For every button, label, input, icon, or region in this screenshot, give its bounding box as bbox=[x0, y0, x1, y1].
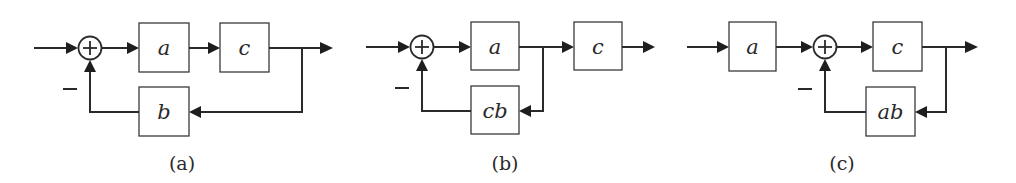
arrowhead-icon bbox=[801, 41, 813, 53]
arrowhead-icon bbox=[519, 105, 531, 117]
svg-text:a: a bbox=[489, 35, 502, 59]
block-a: a bbox=[139, 23, 189, 72]
svg-text:c: c bbox=[239, 36, 251, 60]
arrowhead-icon bbox=[208, 42, 220, 54]
arrowhead-icon bbox=[819, 59, 831, 71]
arrowhead-icon bbox=[861, 41, 873, 53]
arrowhead-icon bbox=[416, 59, 428, 71]
caption-c: (c) bbox=[829, 152, 854, 174]
summing-junction bbox=[411, 36, 434, 59]
svg-text:b: b bbox=[157, 100, 170, 124]
arrowhead-icon bbox=[643, 41, 655, 53]
block-a: a bbox=[471, 22, 519, 70]
block-c: c bbox=[574, 22, 622, 70]
svg-text:ab: ab bbox=[878, 100, 904, 124]
arrowhead-icon bbox=[717, 41, 729, 53]
svg-text:cb: cb bbox=[482, 99, 507, 123]
arrowhead-icon bbox=[66, 42, 78, 54]
arrowhead-icon bbox=[398, 41, 410, 53]
diagram-b: a c cb (b) bbox=[366, 22, 655, 174]
block-a: a bbox=[729, 22, 776, 71]
svg-text:a: a bbox=[746, 35, 759, 59]
arrowhead-icon bbox=[127, 42, 139, 54]
block-b: b bbox=[139, 87, 189, 136]
diagram-c: a c ab (c) bbox=[687, 22, 978, 174]
feedback-line bbox=[925, 47, 946, 112]
svg-text:c: c bbox=[892, 35, 904, 59]
block-cb: cb bbox=[471, 86, 519, 134]
svg-text:a: a bbox=[158, 36, 171, 60]
caption-a: (a) bbox=[169, 152, 195, 174]
block-diagram-figure: a c b (a) bbox=[0, 0, 1016, 183]
feedback-line bbox=[529, 47, 543, 111]
arrowhead-icon bbox=[965, 41, 978, 53]
arrowhead-icon bbox=[562, 41, 574, 53]
arrowhead-icon bbox=[189, 106, 201, 118]
diagram-a: a c b (a) bbox=[34, 23, 333, 174]
block-c: c bbox=[873, 22, 922, 71]
svg-text:c: c bbox=[592, 35, 604, 59]
summing-junction bbox=[79, 37, 102, 60]
arrowhead-icon bbox=[459, 41, 471, 53]
arrowhead-icon bbox=[84, 60, 96, 72]
block-ab: ab bbox=[866, 87, 915, 136]
caption-b: (b) bbox=[492, 152, 519, 174]
arrowhead-icon bbox=[915, 106, 927, 118]
arrowhead-icon bbox=[320, 42, 333, 54]
summing-junction bbox=[814, 36, 837, 59]
block-c: c bbox=[220, 23, 269, 72]
